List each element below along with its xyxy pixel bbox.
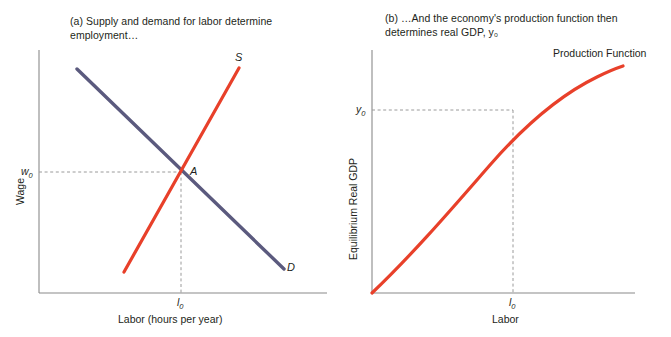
panel-b-production-function-curve [372,66,623,293]
panel-a-y-tick-base: w [21,165,29,177]
panel-a-x-tick-subscript: 0 [179,302,183,311]
panel-a-x-axis-label: Labor (hours per year) [118,313,222,325]
panel-b-y-tick-y0: y0 [356,103,365,118]
panel-b-x-axis-label: Labor [492,313,519,325]
panel-b-production-function: (b) …And the economy's production functi… [335,0,671,337]
panel-a-demand-curve-label: D [287,261,295,273]
panel-b-y-axis-label: Equilibrium Real GDP [347,158,359,260]
panel-a-y-tick-subscript: 0 [29,171,33,180]
panel-a-supply-curve-label: S [235,51,242,63]
panel-a-equilibrium-point-label: A [190,165,197,177]
panel-b-x-tick-l0: l0 [509,296,516,311]
panel-b-y-tick-subscript: 0 [361,109,365,118]
panel-a-y-tick-w0: w0 [21,165,33,180]
panel-a-labor-market: (a) Supply and demand for labor determin… [0,0,340,337]
panel-a-plot [0,0,340,337]
panel-a-x-tick-l0: l0 [177,296,184,311]
panel-b-x-tick-subscript: 0 [511,302,515,311]
panel-a-y-axis-label: Wage [14,178,26,205]
panel-b-production-function-label: Production Function [553,47,646,59]
economics-figure: (a) Supply and demand for labor determin… [0,0,671,337]
